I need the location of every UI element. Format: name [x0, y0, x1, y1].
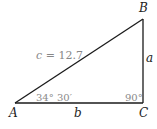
hypotenuse-length-label: c = 12.7	[36, 49, 83, 62]
vertex-label-c: C	[139, 106, 148, 120]
vertex-label-b: B	[138, 1, 148, 15]
vertex-label-a: A	[8, 106, 18, 120]
side-label-b: b	[74, 106, 82, 120]
side-label-a: a	[146, 51, 153, 65]
angle-c-label: 90°	[125, 92, 143, 103]
right-triangle-diagram: B C A a b c = 12.7 34° 30′ 90°	[0, 0, 157, 129]
angle-a-label: 34° 30′	[36, 92, 73, 103]
